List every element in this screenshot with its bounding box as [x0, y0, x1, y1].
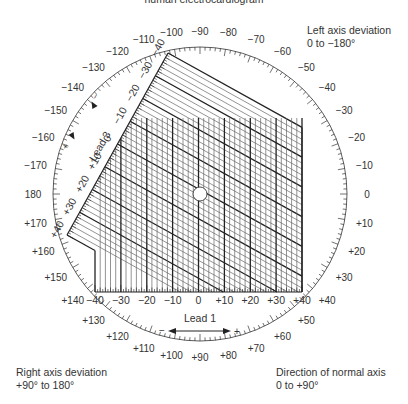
dial-label: +150	[45, 272, 68, 283]
dial-label: +30	[336, 272, 353, 283]
lead-3-gridline	[145, 94, 302, 181]
lead-1-tick-label: +20	[241, 294, 259, 306]
dial-label: +130	[82, 315, 105, 326]
caption-line: Direction of normal axis	[276, 366, 386, 379]
dial-label: 0	[364, 189, 370, 200]
dial-label: −170	[24, 160, 47, 171]
lead-3-tick-label: −30	[135, 59, 154, 81]
lead-3-plus: +	[60, 142, 71, 152]
lead-1-tick-label: −10	[164, 294, 182, 306]
arrow-down-icon	[68, 132, 77, 141]
lead-3-label: Lead 3	[86, 129, 113, 163]
lead-3-gridline	[135, 112, 302, 205]
dial-label: −30	[336, 105, 353, 116]
dial-label: −50	[298, 62, 315, 73]
lead-3-tick-label: −20	[123, 82, 142, 104]
dial-label: +60	[274, 331, 291, 342]
dial-label: +40	[319, 295, 336, 306]
lead-1-tick-label: +40	[293, 294, 311, 306]
lead-3-gridline	[113, 153, 303, 258]
dial-label: +100	[160, 350, 183, 361]
left-axis-deviation-caption: Left axis deviation 0 to −180°	[307, 24, 391, 50]
center-marker	[193, 187, 207, 201]
lead-3-gridline	[168, 53, 302, 127]
dial-label: −20	[348, 132, 365, 143]
dial-label: −10	[356, 160, 373, 171]
right-axis-deviation-caption: Right axis deviation +90° to 180°	[16, 366, 107, 392]
caption-line: Right axis deviation	[16, 366, 107, 379]
dial-label: +10	[356, 218, 373, 229]
lead-1-legend: Lead 1 − +	[159, 312, 240, 337]
dial-label: +170	[24, 218, 47, 229]
lead-1-tick-label: +10	[215, 294, 233, 306]
normal-axis-caption: Direction of normal axis 0 to +90°	[276, 366, 386, 392]
dial-label: +80	[220, 350, 237, 361]
dial-label: −80	[220, 27, 237, 38]
dial-label: −160	[32, 132, 55, 143]
caption-line: Left axis deviation	[307, 24, 391, 37]
lead-3-gridline	[155, 76, 302, 157]
lead-3-tick-label: −10	[110, 105, 129, 127]
hexaxial-diagram: −170−160−150−140−130−120−110−100−90−80−7…	[0, 0, 408, 404]
dial-label: +70	[248, 343, 265, 354]
lead-1-plus: +	[234, 326, 240, 337]
dial-label: −60	[274, 46, 291, 57]
dial-label: 180	[25, 189, 42, 200]
dial-label: −40	[319, 82, 336, 93]
dial-label: +20	[348, 246, 365, 257]
lead-3-gridline	[80, 212, 224, 292]
arrow-left-icon	[168, 328, 176, 334]
arrow-right-icon	[223, 328, 231, 334]
lead-1-tick-label: −20	[138, 294, 156, 306]
caption-line: 0 to −180°	[307, 37, 391, 50]
lead-3-tick-label: +40	[47, 218, 66, 240]
lead-3-gridline	[95, 185, 288, 292]
lead-1-minus: −	[159, 325, 165, 336]
lead-3-gridline	[85, 203, 245, 292]
lead-1-axis: −40−30−20−100+10+20+30+40	[86, 285, 311, 306]
dial-label: −100	[160, 27, 183, 38]
dial-label: +90	[192, 352, 209, 363]
dial-label: −140	[62, 82, 85, 93]
lead-1-tick-label: −30	[112, 294, 130, 306]
lead-1-tick-label: −40	[86, 294, 104, 306]
lead-1-tick-label: +30	[267, 294, 285, 306]
dial-label: −120	[106, 46, 129, 57]
dial-label: +110	[133, 343, 155, 354]
caption-line: +90° to 180°	[16, 379, 107, 392]
lead-3-gridline	[140, 103, 302, 193]
dial-label: +160	[32, 246, 55, 257]
dial-label: −130	[82, 62, 105, 73]
lead-3-gridline	[77, 217, 213, 292]
dial-label: +50	[298, 315, 315, 326]
lead-3-gridline	[143, 99, 302, 187]
lead-1-tick-label: 0	[196, 294, 202, 306]
dial-label: +120	[106, 331, 129, 342]
lead-3-gridline	[72, 226, 191, 292]
caption-line: 0 to +90°	[276, 379, 386, 392]
lead-3-gridline	[123, 135, 303, 235]
lead-1-label: Lead 1	[184, 312, 216, 324]
dial-label: −70	[248, 34, 265, 45]
lead-3-tick-label: +20	[72, 173, 91, 195]
lead-3-tick-label: +30	[60, 196, 79, 218]
lead-3-legend: Lead 3	[86, 129, 113, 163]
dial-label: −150	[45, 105, 68, 116]
lead-3-gridline	[153, 80, 302, 163]
lead-3-gridline	[160, 67, 302, 146]
arrow-up-icon	[89, 100, 98, 109]
dial-label: +140	[62, 295, 85, 306]
lead-3-gridline	[110, 158, 302, 265]
dial-label: −90	[192, 26, 209, 37]
